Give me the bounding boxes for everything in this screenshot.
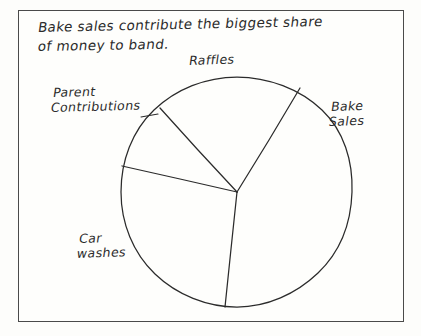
pie-label-car-washes: Car washes: [76, 230, 129, 261]
pie-label-raffles: Raffles: [188, 52, 236, 68]
chart-title: Bake sales contribute the biggest share …: [38, 18, 368, 56]
pie-label-parent-contributions: Parent Contributions: [50, 84, 144, 115]
sketch-page: Bake sales contribute the biggest share …: [0, 0, 421, 336]
pie-label-bake-sales: Bake Sales: [328, 99, 368, 129]
